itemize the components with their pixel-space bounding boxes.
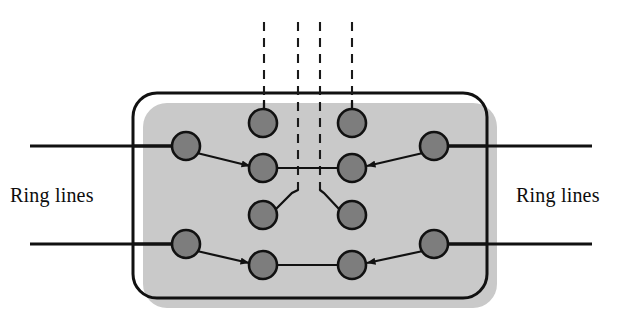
enclosure-box (133, 93, 487, 298)
node-inner-left-bottom[interactable] (249, 251, 277, 279)
node-ring-right-lower[interactable] (420, 230, 448, 258)
node-ring-left-lower[interactable] (172, 230, 200, 258)
node-inner-left-top[interactable] (249, 109, 277, 137)
node-inner-left-mid[interactable] (249, 154, 277, 182)
node-inner-right-top[interactable] (338, 109, 366, 137)
diagram-canvas (0, 0, 620, 323)
ring-lines-label-right: Ring lines (516, 184, 600, 207)
node-ring-right-upper[interactable] (420, 132, 448, 160)
node-inner-right-mid[interactable] (338, 154, 366, 182)
node-inner-right-low[interactable] (338, 201, 366, 229)
ring-network-diagram: Spare capacity Ring lines Ring lines (0, 0, 620, 323)
ring-lines-label-left: Ring lines (10, 184, 94, 207)
node-inner-left-low[interactable] (249, 201, 277, 229)
node-ring-left-upper[interactable] (172, 132, 200, 160)
node-inner-right-bottom[interactable] (338, 251, 366, 279)
